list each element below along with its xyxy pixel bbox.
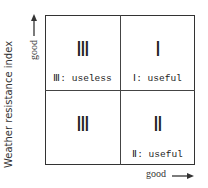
quadrant-bottom-right-numeral: Ⅱ <box>120 112 195 136</box>
y-axis-arrow-icon <box>29 14 39 36</box>
x-axis-direction-label: good <box>146 168 166 179</box>
quadrant-top-right-caption: Ⅰ: useful <box>120 72 195 84</box>
x-axis-arrow-icon <box>172 171 194 181</box>
y-axis-title: Weather resistance index <box>3 41 14 168</box>
quadrant-bottom-left-numeral: Ⅲ <box>45 112 120 136</box>
quadrant-top-left-numeral: Ⅲ <box>45 37 120 61</box>
quadrant-top-right-numeral: Ⅰ <box>120 37 195 61</box>
quadrant-top-left-caption: Ⅲ: useless <box>45 72 120 84</box>
y-axis-direction-label: good <box>28 40 39 60</box>
horizontal-divider <box>45 90 195 91</box>
quadrant-bottom-right-caption: Ⅱ: useful <box>120 148 195 160</box>
